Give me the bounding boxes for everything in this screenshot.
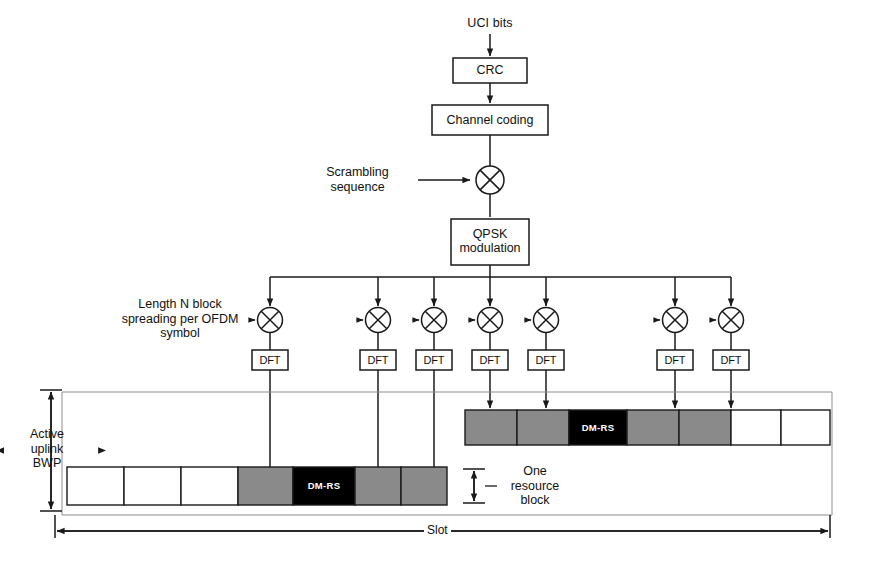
- qpsk-box-label: QPSKmodulation: [451, 227, 529, 255]
- diagram-vector-layer: [0, 0, 889, 570]
- upper-resource-row: [465, 410, 830, 445]
- spreading-label: Length N blockspreading per OFDMsymbol: [110, 297, 250, 341]
- dft-box-label-7: DFT: [713, 354, 749, 366]
- dft-box-label-3: DFT: [416, 354, 452, 366]
- slot-label: Slot: [424, 524, 451, 537]
- lower-row-dmrs-label: DM-RS: [293, 481, 355, 491]
- resource-block-measure-arrow: [463, 469, 497, 503]
- dft-box-label-2: DFT: [360, 354, 396, 366]
- upper-row-dmrs-label: DM-RS: [569, 423, 627, 433]
- dft-box-label-4: DFT: [472, 354, 508, 366]
- dft-box-label-5: DFT: [528, 354, 564, 366]
- spreading-branches: [250, 277, 749, 479]
- dft-box-label-1: DFT: [252, 354, 288, 366]
- spreading-label-part3: symbol: [160, 326, 200, 340]
- channel-coding-box-label: Channel coding: [432, 113, 548, 127]
- spreading-label-part1: Length: [138, 297, 180, 311]
- spreading-label-n: N: [180, 297, 189, 311]
- spreading-label-part1b: block: [189, 297, 222, 311]
- dft-box-label-6: DFT: [657, 354, 693, 366]
- scrambling-sequence-label: Scramblingsequence: [300, 165, 415, 194]
- lower-resource-row: [67, 467, 447, 505]
- active-uplink-bwp-label: ActiveuplinkBWP: [8, 427, 86, 471]
- spreading-label-part2: spreading per OFDM: [122, 312, 239, 326]
- one-resource-block-label: Oneresourceblock: [498, 464, 572, 508]
- crc-box-label: CRC: [453, 63, 527, 77]
- diagram-canvas: UCI bits CRC Channel coding QPSKmodulati…: [0, 0, 889, 570]
- uci-bits-label: UCI bits: [440, 16, 540, 30]
